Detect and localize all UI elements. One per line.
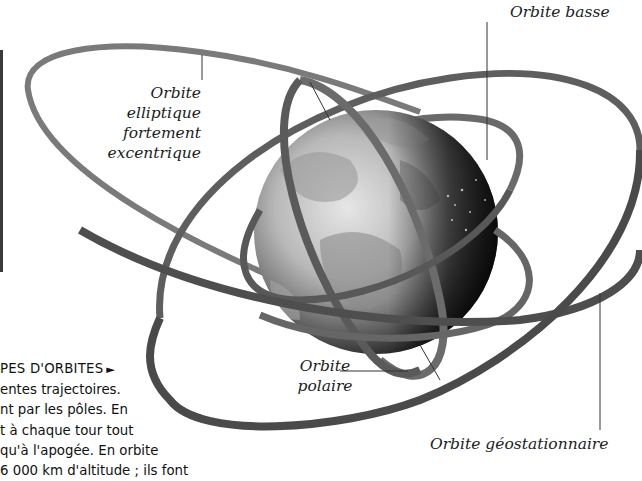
label-geostationary-orbit: Orbite géostationnaire bbox=[430, 434, 608, 454]
caption-block: PES D'ORBITES► entes trajectoires. nt pa… bbox=[0, 359, 260, 481]
label-polar-line-2: polaire bbox=[295, 376, 355, 396]
label-low-orbit: Orbite basse bbox=[510, 2, 610, 22]
caption-line-1: entes trajectoires. bbox=[0, 380, 260, 400]
triangle-arrow-icon: ► bbox=[106, 363, 114, 376]
label-elliptical-orbit: Orbite elliptique fortement excentrique bbox=[75, 83, 201, 163]
caption-line-5: 6 000 km d'altitude ; ils font bbox=[0, 461, 260, 481]
label-elliptical-line-2: fortement bbox=[75, 123, 201, 143]
caption-line-4: qu'à l'apogée. En orbite bbox=[0, 441, 260, 461]
label-elliptical-line-3: excentrique bbox=[75, 143, 201, 163]
caption-heading: PES D'ORBITES► bbox=[0, 359, 260, 380]
caption-line-3: t à chaque tour tout bbox=[0, 421, 260, 441]
caption-line-2: nt par les pôles. En bbox=[0, 400, 260, 420]
caption-heading-text: PES D'ORBITES bbox=[0, 361, 103, 376]
label-polar-orbit: Orbite polaire bbox=[295, 356, 355, 396]
label-elliptical-line-1: Orbite elliptique bbox=[75, 83, 201, 123]
label-polar-line-1: Orbite bbox=[295, 356, 355, 376]
